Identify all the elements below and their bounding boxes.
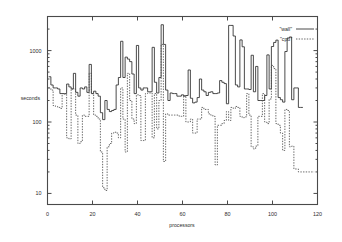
processors-vs-seconds-chart: 101001000 020406080100120 seconds proces… <box>0 0 342 242</box>
plot-frame <box>48 17 318 205</box>
x-tick-label: 20 <box>90 211 96 217</box>
legend-label: "wall" <box>279 26 292 32</box>
x-tick-label: 60 <box>180 211 186 217</box>
x-axis-label: processors <box>169 222 195 228</box>
y-tick-label: 100 <box>33 119 42 125</box>
chart-legend: "wall""cpu" <box>279 26 314 42</box>
y-tick-label: 10 <box>36 190 42 196</box>
x-tick-label: 120 <box>313 211 322 217</box>
x-tick-label: 80 <box>225 211 231 217</box>
y-axis-ticks: 101001000 <box>30 17 318 197</box>
y-axis-label: seconds <box>21 95 41 101</box>
legend-label: "cpu" <box>280 36 292 42</box>
x-tick-label: 40 <box>135 211 141 217</box>
data-series-group <box>49 25 315 191</box>
x-tick-label: 0 <box>46 211 49 217</box>
series-cpu-line <box>49 44 315 190</box>
x-tick-label: 100 <box>268 211 277 217</box>
y-tick-label: 1000 <box>30 48 42 54</box>
chart-figure: 101001000 020406080100120 seconds proces… <box>0 0 342 242</box>
